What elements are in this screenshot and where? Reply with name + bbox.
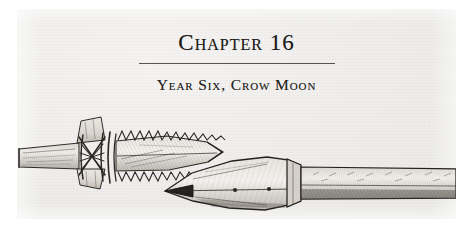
- serrated-blade: [116, 136, 223, 171]
- harpoon-shaft: [19, 143, 79, 169]
- chapter-opener-page: Chapter 16 Year Six, Crow Moon: [0, 0, 474, 235]
- chapter-subtitle: Year Six, Crow Moon: [17, 64, 456, 94]
- spear-shaft: [301, 167, 456, 199]
- chapter-heading-block: Chapter 16 Year Six, Crow Moon: [17, 9, 456, 94]
- spear-socket-collar: [287, 159, 301, 207]
- upper-serrations: [118, 131, 225, 140]
- chapter-title: Chapter 16: [17, 9, 456, 55]
- leaf-shaped-spearhead: [165, 157, 456, 210]
- paper-sheet: Chapter 16 Year Six, Crow Moon: [17, 9, 456, 219]
- title-divider-rule: [139, 63, 335, 64]
